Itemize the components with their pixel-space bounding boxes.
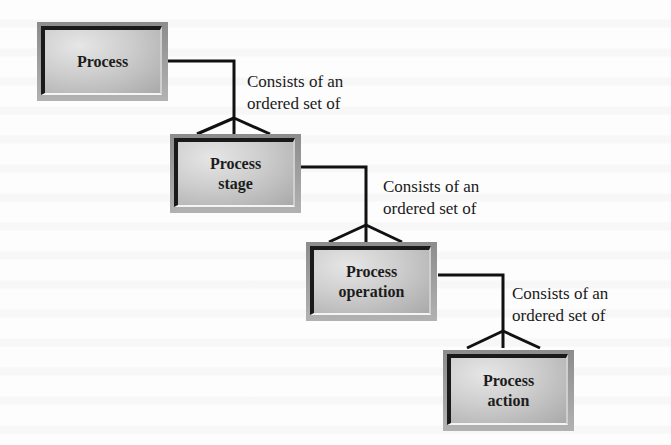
node-process-stage: Process stage	[170, 134, 301, 213]
relationship-label-operation-action: Consists of an ordered set of	[512, 283, 608, 327]
node-process-action-face: Process action	[447, 354, 568, 425]
relationship-label-process-stage: Consists of an ordered set of	[247, 71, 343, 115]
node-label: Process operation	[339, 262, 405, 302]
crows-foot-icon	[467, 331, 503, 348]
crows-foot-icon	[329, 225, 366, 242]
node-label: Process	[77, 52, 128, 72]
node-process-stage-face: Process stage	[174, 138, 295, 207]
crows-foot-icon	[197, 118, 234, 134]
node-process-face: Process	[41, 26, 162, 95]
node-label: Process action	[483, 371, 534, 411]
node-process-action: Process action	[443, 350, 574, 431]
node-process: Process	[37, 22, 168, 101]
node-process-operation: Process operation	[306, 242, 437, 321]
relationship-label-stage-operation: Consists of an ordered set of	[383, 176, 479, 220]
node-label: Process stage	[210, 154, 261, 194]
node-process-operation-face: Process operation	[310, 246, 431, 315]
